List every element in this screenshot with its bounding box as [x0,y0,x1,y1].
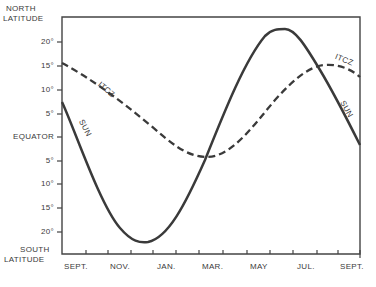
y-tick-label: 15° [6,61,54,70]
chart-plot [0,0,376,287]
y-tick-label: 20° [6,37,54,46]
y-tick-label: 5° [6,156,54,165]
y-tick-label: 10° [6,85,54,94]
y-tick-label: 5° [6,109,54,118]
south-label: SOUTH [20,245,50,254]
south-latitude-label: LATITUDE [4,255,44,264]
y-tick-label: 20° [6,227,54,236]
y-axis-ticks [57,42,62,232]
y-tick-label: 15° [6,203,54,212]
x-tick-label: MAR. [202,262,223,271]
north-label: NORTH [6,4,36,13]
north-latitude-label: LATITUDE [3,14,43,23]
x-tick-label: SEPT. [340,262,364,271]
x-tick-label: SEPT. [64,262,88,271]
plot-frame [62,17,360,254]
x-tick-label: JAN. [157,262,176,271]
equator-label: EQUATOR [2,132,54,141]
sun-line [62,29,360,242]
x-tick-label: JUL. [297,262,315,271]
x-tick-label: MAY [250,262,268,271]
y-tick-label: 10° [6,179,54,188]
x-tick-label: NOV. [110,262,130,271]
